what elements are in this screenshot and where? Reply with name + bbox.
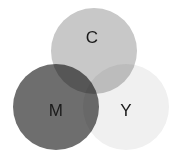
venn-label-m: M xyxy=(49,101,63,120)
venn-label-y: Y xyxy=(120,101,132,120)
venn-diagram-svg: C M Y xyxy=(0,0,175,166)
venn-label-c: C xyxy=(86,28,98,47)
cmy-venn-figure: C M Y xyxy=(0,0,175,166)
